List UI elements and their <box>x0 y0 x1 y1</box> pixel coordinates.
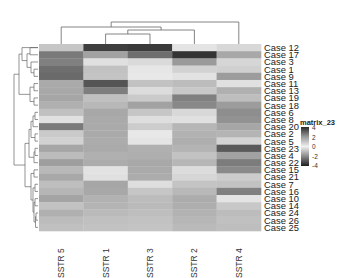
heatmap-cell <box>128 102 173 109</box>
legend-tick: 4 <box>312 124 316 131</box>
heatmap-cell <box>83 80 128 87</box>
heatmap-cell <box>83 123 128 130</box>
heatmap-cell <box>39 80 84 87</box>
heatmap-cell <box>128 80 173 87</box>
heatmap-cell <box>172 102 217 109</box>
heatmap-cell <box>128 166 173 173</box>
heatmap-cell <box>172 166 217 173</box>
heatmap-cells <box>39 44 261 231</box>
heatmap-cell <box>217 181 262 188</box>
heatmap-cell <box>217 87 262 94</box>
heatmap-cell <box>172 159 217 166</box>
heatmap-cell <box>39 102 84 109</box>
heatmap-cell <box>128 195 173 202</box>
column-label: SSTR 1 <box>101 248 111 278</box>
heatmap-cell <box>217 73 262 80</box>
heatmap-cell <box>172 58 217 65</box>
heatmap-cell <box>128 152 173 159</box>
legend-tick: -2 <box>312 153 318 160</box>
heatmap-cell <box>217 44 262 51</box>
heatmap-cell <box>83 138 128 145</box>
heatmap-cell <box>83 166 128 173</box>
heatmap-cell <box>83 152 128 159</box>
heatmap-cell <box>172 224 217 231</box>
heatmap-cell <box>217 80 262 87</box>
heatmap-cell <box>217 102 262 109</box>
heatmap-cell <box>217 145 262 152</box>
heatmap-cell <box>39 116 84 123</box>
row-dendrogram <box>14 48 38 228</box>
heatmap-cell <box>128 51 173 58</box>
heatmap-cell <box>39 217 84 224</box>
heatmap-cell <box>83 51 128 58</box>
heatmap-cell <box>83 173 128 180</box>
heatmap-cell <box>172 209 217 216</box>
heatmap-cell <box>172 195 217 202</box>
heatmap-cell <box>83 188 128 195</box>
heatmap-cell <box>128 109 173 116</box>
heatmap-cell <box>217 224 262 231</box>
heatmap-cell <box>128 224 173 231</box>
heatmap-cell <box>39 145 84 152</box>
heatmap-cell <box>128 209 173 216</box>
heatmap-cell <box>83 224 128 231</box>
heatmap-cell <box>83 202 128 209</box>
column-label: SSTR 4 <box>234 248 244 278</box>
heatmap-cell <box>217 138 262 145</box>
heatmap-cell <box>39 159 84 166</box>
heatmap-cell <box>217 202 262 209</box>
heatmap-cell <box>217 217 262 224</box>
heatmap-cell <box>83 94 128 101</box>
heatmap-cell <box>39 181 84 188</box>
heatmap-cell <box>39 123 84 130</box>
heatmap-cell <box>128 116 173 123</box>
heatmap-cell <box>39 188 84 195</box>
heatmap-cell <box>83 44 128 51</box>
heatmap-cell <box>128 87 173 94</box>
heatmap-cell <box>39 173 84 180</box>
heatmap-cell <box>217 109 262 116</box>
heatmap-cell <box>172 152 217 159</box>
heatmap-cell <box>39 195 84 202</box>
heatmap-cell <box>172 202 217 209</box>
heatmap-cell <box>128 138 173 145</box>
heatmap-cell <box>128 202 173 209</box>
heatmap-cell <box>83 102 128 109</box>
heatmap-cell <box>172 109 217 116</box>
heatmap-cell <box>83 159 128 166</box>
heatmap-cell <box>172 173 217 180</box>
heatmap-cell <box>128 145 173 152</box>
legend-color-bar <box>301 127 309 166</box>
heatmap-cell <box>172 145 217 152</box>
heatmap-cell <box>172 123 217 130</box>
heatmap-cell <box>128 217 173 224</box>
heatmap-cell <box>217 51 262 58</box>
heatmap-cell <box>172 51 217 58</box>
heatmap-cell <box>83 109 128 116</box>
column-label: SSTR 5 <box>56 248 66 278</box>
heatmap-cell <box>39 87 84 94</box>
heatmap-cell <box>128 58 173 65</box>
heatmap-cell <box>39 209 84 216</box>
heatmap-cell <box>39 224 84 231</box>
heatmap-cell <box>172 138 217 145</box>
heatmap-cell <box>39 166 84 173</box>
legend-tick: 0 <box>312 143 316 150</box>
heatmap-cell <box>128 123 173 130</box>
heatmap-cell <box>128 188 173 195</box>
heatmap-cell <box>172 181 217 188</box>
heatmap-cell <box>172 80 217 87</box>
heatmap-cell <box>39 109 84 116</box>
heatmap-cell <box>39 44 84 51</box>
column-dendrogram <box>61 22 239 44</box>
heatmap-cell <box>39 51 84 58</box>
heatmap-cell <box>128 44 173 51</box>
heatmap-cell <box>39 66 84 73</box>
heatmap-cell <box>83 181 128 188</box>
heatmap-cell <box>39 202 84 209</box>
heatmap-cell <box>217 123 262 130</box>
heatmap-cell <box>83 145 128 152</box>
heatmap-cell <box>172 87 217 94</box>
heatmap-cell <box>83 73 128 80</box>
heatmap-cell <box>172 217 217 224</box>
